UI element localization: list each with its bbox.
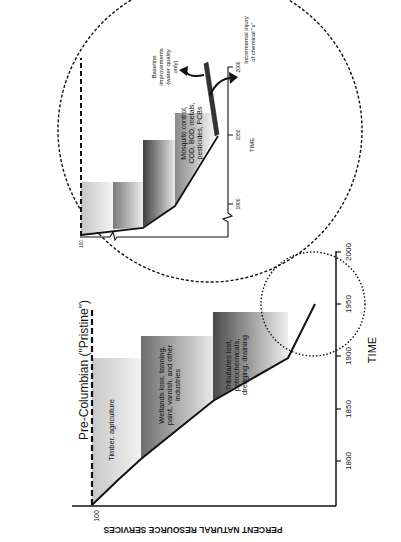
x-tick-1950: 1950 — [344, 295, 353, 313]
baseline-improvements-arrow — [186, 72, 204, 76]
inset-y-tick-100: 100 — [79, 240, 84, 248]
x-tick-2000: 2000 — [344, 243, 353, 261]
inset-x-axis — [223, 67, 233, 237]
band-label-line: Mosquito control, — [180, 106, 188, 159]
incremental-injury-arrow — [210, 78, 232, 95]
x-tick-1800: 1800 — [344, 452, 353, 470]
inset-band-3 — [143, 140, 175, 228]
inset-x-tick-1900: 1900 — [235, 198, 241, 209]
inset-chart: 1900 1950 2000 TIME 100 Mosquito control… — [58, 0, 362, 282]
x-tick-1900: 1900 — [344, 347, 353, 365]
arrowhead — [229, 72, 238, 84]
label-line: Incremental injury — [243, 16, 249, 63]
inset-x-tick-2000: 2000 — [235, 61, 241, 72]
inset-x-tick-1950: 1950 — [235, 129, 241, 140]
main-chart: 1800 1850 1900 1950 2000 TIME 100 PERCEN… — [72, 243, 378, 535]
band-label-line: industries — [173, 369, 182, 401]
baseline-improvements-label: Baseline improvements (water quality onl… — [151, 48, 178, 86]
arrowhead — [179, 66, 188, 76]
band-label-timber: Timber, agriculture — [107, 399, 116, 461]
label-line: improvements — [158, 48, 164, 86]
y-tick-100: 100 — [93, 510, 100, 522]
label-line: only) — [172, 60, 178, 73]
x-tick-1850: 1850 — [344, 400, 353, 418]
diagram-canvas: 1800 1850 1900 1950 2000 TIME 100 PERCEN… — [0, 0, 401, 542]
inset-x-axis-label: TIME — [249, 138, 255, 152]
inset-band-1 — [81, 182, 113, 235]
band-label-tributaries: Tributaries lost, petrochemicals, dredgi… — [224, 335, 249, 395]
y-axis-label: PERCENT NATURAL RESOURCE SERVICES — [103, 525, 282, 535]
x-axis-label: TIME — [366, 337, 378, 363]
band-label-line: pesticides, PCBs — [196, 106, 204, 159]
label-line: (water quality — [165, 49, 171, 85]
incremental-injury-label: Incremental injury of chemical "x" — [243, 16, 256, 63]
inset-band-2 — [113, 182, 143, 229]
inset-x-ticks — [228, 135, 233, 204]
band-label-line: COD, BOD, metals, — [188, 102, 195, 163]
pristine-baseline-label: Pre-Columbian ("Pristine") — [77, 300, 91, 440]
label-line: Baseline — [151, 55, 157, 79]
inset-band-label: Mosquito control, COD, BOD, metals, pest… — [180, 102, 204, 163]
label-line: of chemical "x" — [250, 22, 256, 61]
band-label-line: dredging, draining — [240, 335, 249, 395]
